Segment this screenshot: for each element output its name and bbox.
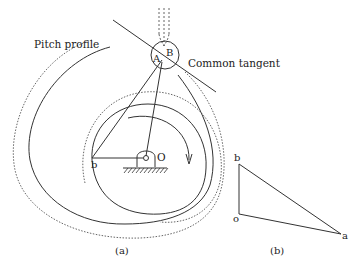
- vertex-o-label: o: [233, 213, 239, 224]
- velocity-triangle: [239, 164, 341, 234]
- vertex-a-label: a: [342, 230, 348, 241]
- line-O-to-roller: [146, 62, 162, 156]
- ground-hatching: [124, 168, 168, 173]
- pitch-profile-label: Pitch profile: [34, 38, 99, 50]
- cam-mechanism-diagram: Pitch profile Common tangent A B b O (a)…: [0, 0, 354, 266]
- point-A-label: A: [152, 53, 161, 64]
- pitch-profile-curve: [13, 40, 224, 238]
- point-b-label: b: [91, 159, 97, 170]
- panel-b: b o a (b): [233, 152, 348, 256]
- cam-profile-curve: [29, 47, 213, 224]
- line-b-to-A: [92, 60, 162, 158]
- vertex-b-label: b: [234, 152, 240, 163]
- panel-b-caption: (b): [270, 245, 284, 256]
- panel-a-caption: (a): [115, 245, 129, 256]
- pivot-O-label: O: [157, 151, 166, 163]
- panel-a: Pitch profile Common tangent A B b O (a): [13, 8, 280, 256]
- common-tangent-line: [113, 20, 216, 92]
- point-B-label: B: [166, 47, 173, 58]
- common-tangent-label: Common tangent: [188, 57, 281, 69]
